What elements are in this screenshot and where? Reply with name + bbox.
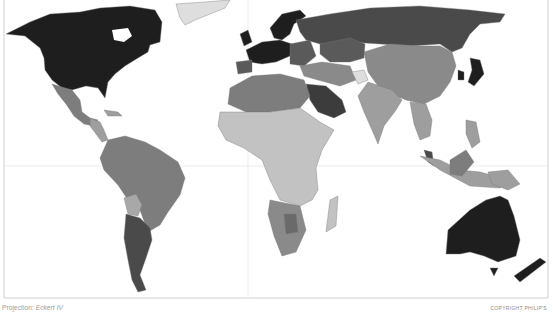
region-south-america <box>100 136 185 232</box>
region-greenland <box>176 0 230 25</box>
region-madagascar <box>326 196 338 232</box>
projection-caption: Projection: Eckert IV <box>2 304 63 311</box>
world-map: Projection: Eckert IV COPYRIGHT PHILIP'S <box>0 0 553 318</box>
region-new-zealand <box>514 258 546 282</box>
region-botswana <box>284 214 298 234</box>
region-western-europe <box>246 40 292 64</box>
region-southeast-asia <box>410 102 432 140</box>
region-spain <box>236 60 252 74</box>
region-central-america <box>90 118 108 142</box>
region-caribbean <box>104 110 122 116</box>
region-north-america <box>6 6 162 98</box>
projection-label: Projection: <box>2 304 34 311</box>
region-australia <box>446 196 520 262</box>
region-uk <box>240 30 252 46</box>
region-north-africa <box>228 74 310 112</box>
region-eastern-europe <box>290 40 316 66</box>
region-japan <box>468 58 484 86</box>
copyright-caption: COPYRIGHT PHILIP'S <box>490 305 547 311</box>
region-korea <box>458 70 464 80</box>
region-philippines <box>466 120 480 148</box>
region-afghanistan <box>352 70 368 84</box>
region-turkey-iran <box>300 62 356 86</box>
region-sub-saharan-africa <box>218 108 334 206</box>
projection-name: Eckert IV <box>36 304 63 311</box>
region-saudi-arabia <box>306 84 346 118</box>
region-tasmania <box>490 268 498 276</box>
map-canvas <box>0 0 553 318</box>
region-argentina-chile <box>124 214 152 292</box>
